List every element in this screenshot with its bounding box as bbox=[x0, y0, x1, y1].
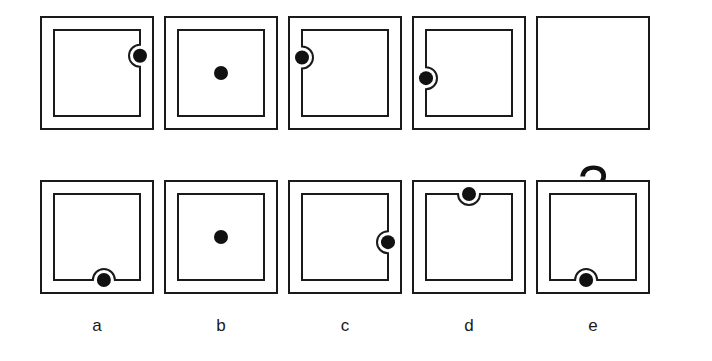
inner-frame bbox=[302, 30, 388, 116]
option-b[interactable] bbox=[164, 180, 278, 294]
option-d[interactable] bbox=[412, 180, 526, 294]
inner-frame bbox=[426, 194, 512, 280]
dot-marker bbox=[419, 71, 433, 85]
dot-marker bbox=[133, 49, 147, 63]
dot-marker bbox=[579, 273, 593, 287]
dot-marker bbox=[381, 235, 395, 249]
option-a[interactable] bbox=[40, 180, 154, 294]
option-b-label: b bbox=[164, 316, 278, 336]
puzzle-container: ?abcde bbox=[0, 0, 712, 361]
option-c[interactable] bbox=[288, 180, 402, 294]
inner-frame bbox=[54, 30, 140, 116]
sequence-cell-2 bbox=[164, 16, 278, 130]
outer-frame bbox=[537, 17, 649, 129]
option-e[interactable] bbox=[536, 180, 650, 294]
dot-marker bbox=[214, 66, 228, 80]
dot-marker bbox=[462, 187, 476, 201]
sequence-cell-1 bbox=[40, 16, 154, 130]
dot-marker bbox=[97, 273, 111, 287]
inner-frame bbox=[302, 194, 388, 280]
sequence-cell-3 bbox=[288, 16, 402, 130]
option-c-label: c bbox=[288, 316, 402, 336]
option-d-label: d bbox=[412, 316, 526, 336]
sequence-cell-4 bbox=[412, 16, 526, 130]
dot-marker bbox=[295, 51, 309, 65]
inner-frame bbox=[54, 194, 140, 280]
sequence-cell-5: ? bbox=[536, 16, 650, 130]
option-a-label: a bbox=[40, 316, 154, 336]
inner-frame bbox=[550, 194, 636, 280]
dot-marker bbox=[214, 230, 228, 244]
option-e-label: e bbox=[536, 316, 650, 336]
inner-frame bbox=[426, 30, 512, 116]
